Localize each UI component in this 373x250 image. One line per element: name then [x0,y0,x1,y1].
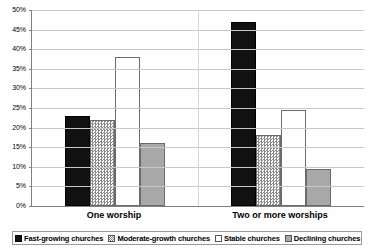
y-axis-tick [29,167,32,168]
y-axis-tick-label: 35% [12,65,26,73]
legend-label: Moderate-growth churches [117,234,210,243]
legend-item[interactable]: Moderate-growth churches [108,234,210,243]
y-axis: 50%45%40%35%30%25%20%15%10%5%0% [0,0,28,228]
bar [115,57,140,206]
y-axis-tick-label: 15% [12,143,26,151]
legend-swatch-icon [15,235,22,242]
y-axis-tick-label: 50% [12,6,26,14]
y-axis-tick-label: 5% [16,182,26,190]
y-axis-tick [29,108,32,109]
y-axis-tick [29,30,32,31]
chart-legend: Fast-growing churchesModerate-growth chu… [12,231,362,245]
x-axis-category-labels: One worshipTwo or more worships [31,208,363,226]
legend-label: Declining churches [294,234,361,243]
legend-swatch-icon [108,235,115,242]
bar-chart: 50%45%40%35%30%25%20%15%10%5%0% One wors… [0,0,373,250]
plot-area [31,10,364,207]
y-axis-tick-label: 45% [12,26,26,34]
x-axis-category-label: One worship [31,210,197,220]
legend-item[interactable]: Stable churches [215,234,280,243]
legend-label: Fast-growing churches [24,234,103,243]
y-axis-tick [29,128,32,129]
bar [281,110,306,206]
legend-label: Stable churches [224,234,280,243]
y-axis-tick-label: 10% [12,163,26,171]
y-axis-tick-label: 30% [12,84,26,92]
legend-item[interactable]: Fast-growing churches [15,234,103,243]
bar [90,120,115,206]
category-separator [198,10,199,206]
y-axis-tick-label: 20% [12,124,26,132]
y-axis-tick [29,186,32,187]
bar [256,135,281,206]
y-axis-tick [29,10,32,11]
y-axis-tick [29,88,32,89]
y-axis-tick-label: 0% [16,202,26,210]
legend-item[interactable]: Declining churches [285,234,361,243]
y-axis-tick [29,147,32,148]
plot-wrapper: 50%45%40%35%30%25%20%15%10%5%0% One wors… [0,0,373,228]
y-axis-tick [29,206,32,207]
legend-swatch-icon [285,235,292,242]
bar [65,116,90,206]
legend-swatch-icon [215,235,222,242]
x-axis-category-label: Two or more worships [197,210,363,220]
y-axis-tick-label: 40% [12,45,26,53]
y-axis-tick [29,69,32,70]
bar [140,143,165,206]
y-axis-tick [29,49,32,50]
y-axis-tick-label: 25% [12,104,26,112]
